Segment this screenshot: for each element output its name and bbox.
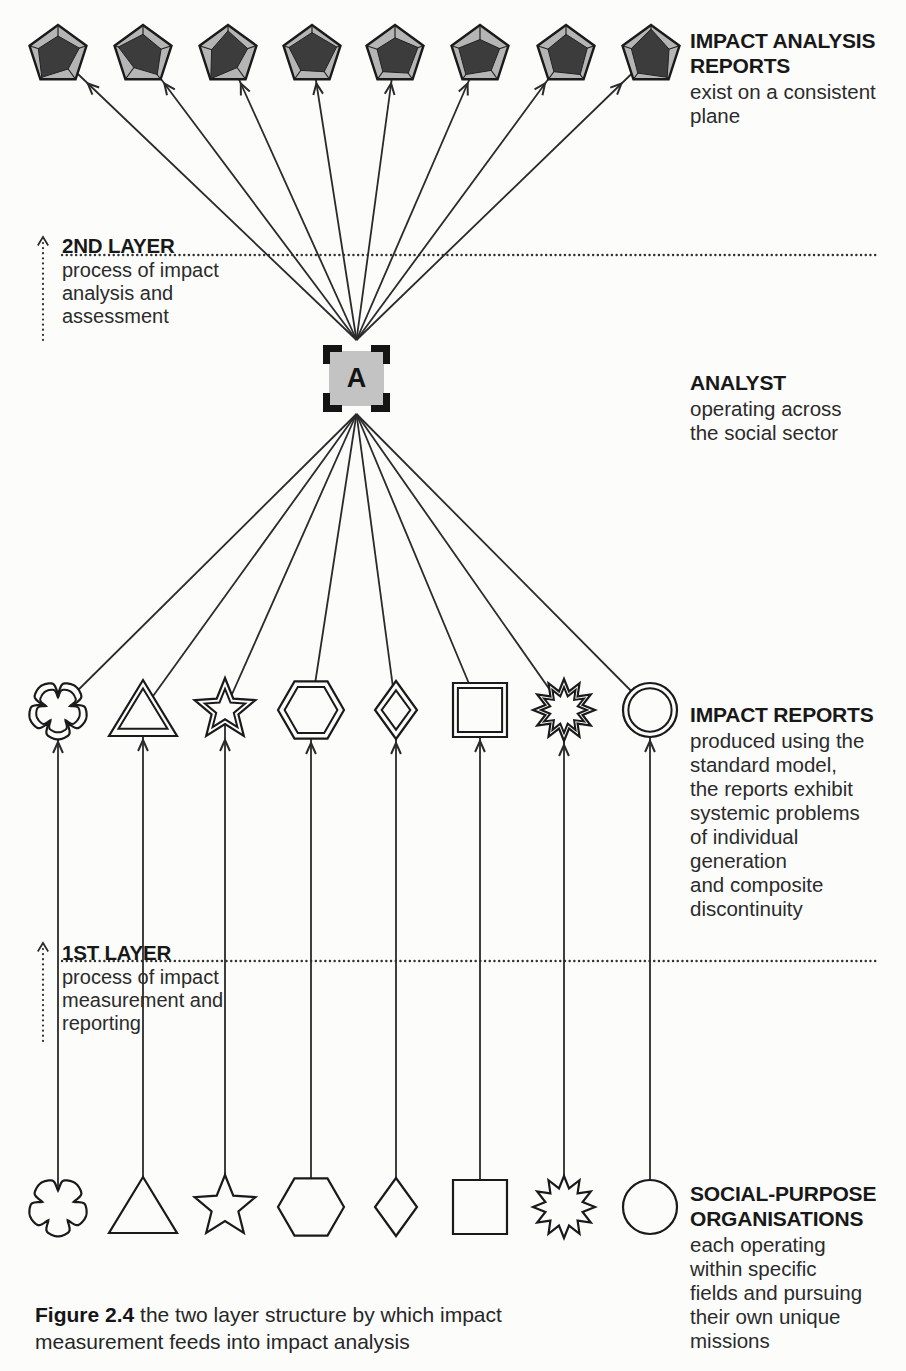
organisation-shape-circle <box>623 1180 677 1234</box>
figure-caption-line1: the two layer structure by which impact <box>140 1303 502 1326</box>
report-to-analyst-line <box>311 414 357 710</box>
organisation-shape-hexagon <box>278 1178 344 1235</box>
organisation-shape-flower <box>29 1180 86 1236</box>
impact-report-shape-square <box>453 683 507 737</box>
analyst-title: ANALYST <box>690 370 904 395</box>
report-to-analyst-line <box>143 414 357 710</box>
1st-layer-title: 1ST LAYER <box>62 942 272 964</box>
label-impact-analysis-reports: IMPACT ANALYSIS REPORTS exist on a consi… <box>690 28 904 128</box>
analyst-desc: operating across the social sector <box>690 397 904 445</box>
report-to-analyst-line <box>357 414 481 710</box>
analyst-box-letter: A <box>329 351 384 406</box>
analyst-to-analysis-report-arrow <box>312 55 357 340</box>
figure-caption-number: Figure 2.4 <box>35 1303 134 1326</box>
label-1st-layer: 1ST LAYER process of impact measurement … <box>62 942 272 1035</box>
report-to-analyst-line <box>58 414 357 710</box>
report-to-analyst-line <box>357 414 565 710</box>
organisations-desc: each operating within specific fields an… <box>690 1233 904 1353</box>
impact-analysis-reports-desc: exist on a consistent plane <box>690 80 904 128</box>
analyst-to-analysis-report-arrow <box>357 55 652 340</box>
label-impact-reports: IMPACT REPORTS produced using the standa… <box>690 702 904 921</box>
organisation-shape-burst <box>533 1176 595 1238</box>
figure-caption: Figure 2.4 the two layer structure by wh… <box>35 1301 595 1355</box>
figure-page: IMPACT ANALYSIS REPORTS exist on a consi… <box>0 0 906 1371</box>
report-to-analyst-line <box>357 414 651 710</box>
impact-report-shape-circle <box>623 683 677 737</box>
impact-analysis-reports-title: IMPACT ANALYSIS REPORTS <box>690 28 904 78</box>
1st-layer-desc: process of impact measurement and report… <box>62 966 272 1035</box>
organisation-shape-diamond <box>375 1178 417 1236</box>
impact-report-shape-hexagon <box>278 681 344 738</box>
label-social-purpose-organisations: SOCIAL-PURPOSE ORGANISATIONS each operat… <box>690 1181 904 1353</box>
organisation-shape-star <box>195 1175 256 1233</box>
analyst-box-bracket <box>383 393 390 412</box>
impact-reports-desc: produced using the standard model, the r… <box>690 729 904 921</box>
analyst-box-bracket <box>383 345 390 364</box>
impact-report-shape-flower <box>29 683 86 739</box>
report-to-analyst-line <box>225 414 357 710</box>
figure-caption-line2: measurement feeds into impact analysis <box>35 1330 410 1353</box>
organisation-shape-triangle <box>109 1177 177 1233</box>
report-to-analyst-line <box>357 414 397 710</box>
impact-reports-title: IMPACT REPORTS <box>690 702 904 727</box>
2nd-layer-desc: process of impact analysis and assessmen… <box>62 259 272 328</box>
organisation-shape-square <box>453 1180 507 1234</box>
label-analyst: ANALYST operating across the social sect… <box>690 370 904 445</box>
label-2nd-layer: 2ND LAYER process of impact analysis and… <box>62 235 272 328</box>
layer1-direction-arrow-head <box>38 943 48 952</box>
diagram-canvas <box>0 0 906 1371</box>
layer2-direction-arrow-head <box>38 237 48 246</box>
organisations-title: SOCIAL-PURPOSE ORGANISATIONS <box>690 1181 904 1231</box>
2nd-layer-title: 2ND LAYER <box>62 235 272 257</box>
